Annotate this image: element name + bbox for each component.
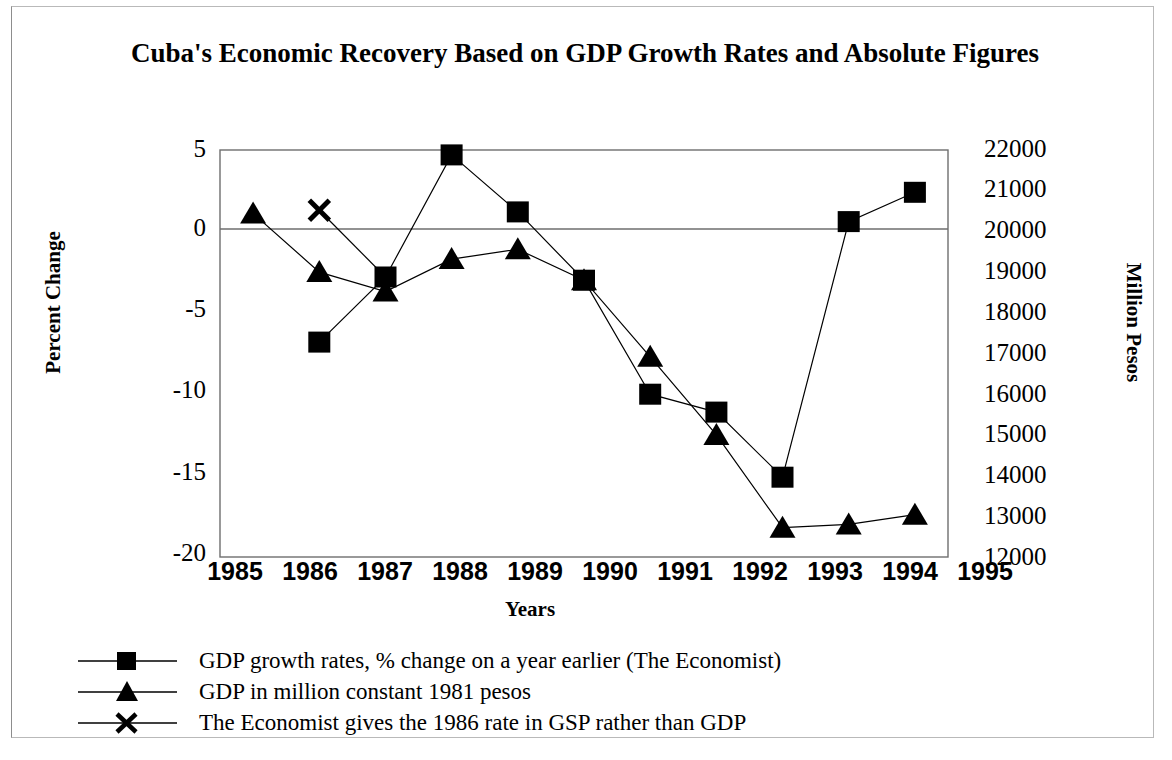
legend-row-gsp-note: The Economist gives the 1986 rate in GSP… [70, 707, 1070, 738]
legend-label-1: GDP in million constant 1981 pesos [185, 679, 531, 705]
data-point-triangle [505, 237, 531, 259]
data-point-triangle [902, 503, 928, 525]
data-point-triangle [240, 202, 266, 224]
data-point-square [838, 211, 860, 232]
chart-page: Cuba's Economic Recovery Based on GDP Gr… [0, 0, 1172, 760]
square-marker [70, 645, 185, 676]
data-point-triangle [637, 345, 663, 367]
data-point-cross [309, 200, 329, 220]
data-point-square [904, 182, 926, 203]
plot-frame [220, 150, 948, 557]
data-point-square [308, 332, 330, 353]
series-layer [240, 144, 928, 537]
data-point-square [507, 201, 529, 222]
triangle-marker [70, 676, 185, 707]
data-point-triangle [703, 423, 729, 445]
data-point-square [705, 402, 727, 423]
series-gdp-absolute [240, 202, 928, 538]
legend-row-gdp-growth: GDP growth rates, % change on a year ear… [70, 645, 1070, 676]
data-point-square [639, 384, 661, 405]
cross-marker [70, 707, 185, 738]
data-point-square [772, 467, 794, 488]
legend-row-gdp-absolute: GDP in million constant 1981 pesos [70, 676, 1070, 707]
series-gdp-growth [308, 144, 926, 487]
legend-label-0: GDP growth rates, % change on a year ear… [185, 648, 781, 674]
legend-label-2: The Economist gives the 1986 rate in GSP… [185, 710, 746, 736]
data-point-square [441, 144, 463, 165]
axis-lines [220, 150, 948, 557]
chart-legend: GDP growth rates, % change on a year ear… [70, 645, 1070, 738]
